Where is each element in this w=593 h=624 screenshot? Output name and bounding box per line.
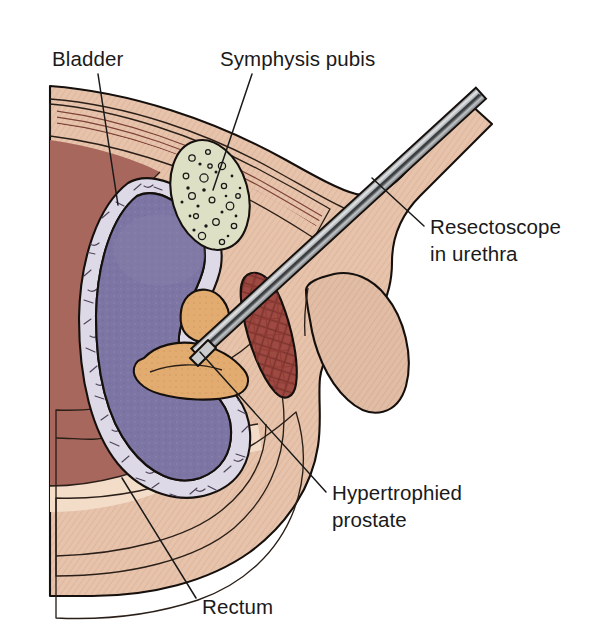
medical-illustration: Bladder Symphysis pubis Resectoscope in …: [0, 0, 593, 624]
label-bladder: Bladder: [52, 47, 123, 70]
label-symphysis-pubis: Symphysis pubis: [220, 47, 375, 70]
sagittal-pelvis-diagram: Bladder Symphysis pubis Resectoscope in …: [0, 0, 593, 624]
label-rectum: Rectum: [202, 595, 273, 618]
label-resectoscope: Resectoscope in urethra: [430, 215, 567, 265]
label-hypertrophied-prostate: Hypertrophied prostate: [332, 481, 468, 531]
scrotum-and-testis: [306, 273, 409, 413]
